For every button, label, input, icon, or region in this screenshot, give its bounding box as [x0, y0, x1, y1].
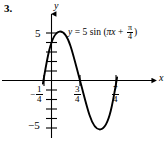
fraction-denominator: 4	[36, 95, 43, 104]
y-tick-label-5: 5	[35, 28, 41, 39]
x-axis-label: x	[159, 73, 163, 83]
equation-annotation: y = 5 sin ( πx + π 4 )	[68, 24, 137, 41]
equation-plus: +	[118, 28, 123, 38]
coordinate-plot	[0, 0, 165, 144]
fraction-three-quarters: 3 4	[74, 85, 81, 104]
equation-equals: =	[75, 28, 80, 38]
problem-number: 3.	[4, 3, 12, 14]
equation-function: sin	[90, 28, 101, 38]
minus-sign: −	[30, 90, 35, 99]
y-tick-label-negative-5: −5	[28, 120, 40, 131]
fraction-denominator: 4	[127, 33, 133, 41]
y-axis-label: y	[54, 1, 58, 11]
equation-pi-x: πx	[107, 28, 116, 38]
graph-figure: 3. y x 5 −5 − 1 4 3 4 7 4 y = 5 sin	[0, 0, 165, 144]
x-tick-label-seven-quarters: 7 4	[112, 85, 119, 104]
fraction-negative-one-quarter: 1 4	[36, 85, 43, 104]
fraction-denominator: 4	[112, 95, 119, 104]
fraction-seven-quarters: 7 4	[112, 85, 119, 104]
fraction-denominator: 4	[74, 95, 81, 104]
equation-close-paren: )	[134, 28, 137, 38]
equation-phase-fraction: π 4	[127, 24, 133, 41]
x-tick-label-negative-one-quarter: − 1 4	[30, 85, 43, 104]
equation-lhs: y	[68, 28, 72, 38]
x-tick-label-three-quarters: 3 4	[74, 85, 81, 104]
equation-amplitude: 5	[83, 28, 88, 38]
